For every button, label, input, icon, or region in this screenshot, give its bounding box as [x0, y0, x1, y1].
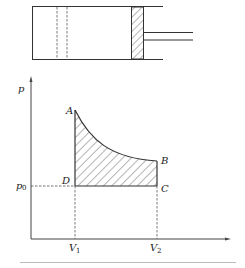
x-axis-arrow-icon [225, 238, 231, 241]
point-label-D: D [61, 175, 70, 186]
point-label-A: A [65, 105, 73, 116]
y-axis-label: p [18, 83, 25, 94]
v1-label-subscript: 1 [76, 247, 80, 255]
cylinder [32, 6, 193, 60]
point-label-C: C [161, 183, 169, 194]
p0-label: p 0 [16, 180, 26, 192]
diagram-canvas: p A B D C p 0 V 1 V 2 [0, 0, 245, 268]
y-axis-arrow-icon [30, 76, 33, 82]
piston [132, 7, 144, 59]
v2-label-subscript: 2 [157, 247, 161, 255]
pv-graph: p A B D C p 0 V 1 V 2 [16, 76, 231, 255]
point-label-B: B [160, 155, 168, 166]
p0-label-subscript: 0 [22, 184, 26, 192]
work-area-hatched [75, 110, 157, 186]
v1-label: V 1 [69, 242, 80, 255]
v2-label: V 2 [150, 242, 161, 255]
